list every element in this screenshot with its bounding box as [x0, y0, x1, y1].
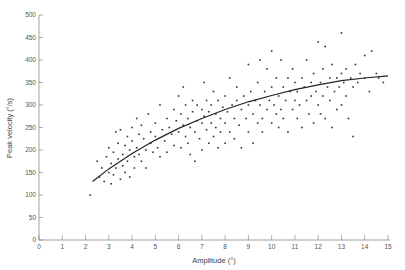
- data-point: [224, 122, 226, 124]
- data-point: [306, 59, 308, 61]
- y-tick-label: 0: [32, 236, 36, 243]
- data-point: [136, 147, 138, 149]
- data-point: [364, 55, 366, 57]
- fit-curve: [93, 76, 389, 182]
- data-point: [257, 122, 259, 124]
- data-point: [352, 86, 354, 88]
- data-point: [252, 142, 254, 144]
- data-point: [355, 64, 357, 66]
- data-point: [280, 59, 282, 61]
- data-point: [164, 140, 166, 142]
- data-point: [185, 136, 187, 138]
- x-tick-label: 3: [107, 243, 111, 250]
- data-point: [262, 118, 264, 120]
- data-point: [117, 142, 119, 144]
- data-point: [250, 91, 252, 93]
- data-point: [248, 64, 250, 66]
- data-point: [236, 100, 238, 102]
- data-point: [131, 127, 133, 129]
- data-point: [152, 151, 154, 153]
- data-point: [173, 145, 175, 147]
- data-point: [280, 109, 282, 111]
- data-point: [278, 127, 280, 129]
- data-point: [273, 104, 275, 106]
- data-point: [103, 181, 105, 183]
- data-point: [143, 138, 145, 140]
- data-point: [89, 194, 91, 196]
- data-point: [120, 178, 122, 180]
- data-point: [189, 154, 191, 156]
- data-point: [206, 129, 208, 131]
- data-point: [238, 124, 240, 126]
- data-point: [141, 124, 143, 126]
- data-point: [322, 68, 324, 70]
- data-point: [138, 133, 140, 135]
- data-point: [320, 82, 322, 84]
- data-point: [313, 73, 315, 75]
- data-point: [252, 113, 254, 115]
- y-tick-label: 450: [25, 34, 36, 41]
- data-point: [206, 100, 208, 102]
- y-tick-label: 300: [25, 101, 36, 108]
- data-point: [287, 77, 289, 79]
- data-point: [192, 100, 194, 102]
- x-tick-label: 4: [130, 243, 134, 250]
- data-point: [136, 118, 138, 120]
- data-point: [115, 167, 117, 169]
- data-point: [227, 111, 229, 113]
- data-point: [178, 95, 180, 97]
- x-tick-label: 0: [37, 243, 41, 250]
- data-point: [317, 104, 319, 106]
- data-point: [127, 136, 129, 138]
- data-point: [292, 68, 294, 70]
- data-point: [134, 156, 136, 158]
- data-point: [348, 118, 350, 120]
- data-point: [117, 158, 119, 160]
- y-tick-label: 500: [25, 11, 36, 18]
- data-point: [96, 160, 98, 162]
- data-point: [201, 109, 203, 111]
- x-axis-title: Amplitude (°): [192, 256, 236, 265]
- data-point: [334, 91, 336, 93]
- data-point: [145, 149, 147, 151]
- x-tick-label: 2: [84, 243, 88, 250]
- data-point: [294, 100, 296, 102]
- data-point: [199, 138, 201, 140]
- data-point: [331, 127, 333, 129]
- data-point: [220, 131, 222, 133]
- data-point: [110, 183, 112, 185]
- data-point: [271, 86, 273, 88]
- data-point: [122, 154, 124, 156]
- data-point: [234, 118, 236, 120]
- data-point: [301, 77, 303, 79]
- data-point: [350, 77, 352, 79]
- data-point: [224, 95, 226, 97]
- x-tick-label: 1: [60, 243, 64, 250]
- data-point: [248, 104, 250, 106]
- data-point: [192, 111, 194, 113]
- data-point: [194, 131, 196, 133]
- data-point: [162, 129, 164, 131]
- data-point: [210, 104, 212, 106]
- data-point: [383, 82, 385, 84]
- data-point: [210, 122, 212, 124]
- data-point: [148, 113, 150, 115]
- data-point: [201, 149, 203, 151]
- data-point: [180, 113, 182, 115]
- data-point: [248, 131, 250, 133]
- data-point: [292, 109, 294, 111]
- data-point: [208, 142, 210, 144]
- data-point: [299, 104, 301, 106]
- data-point: [215, 127, 217, 129]
- data-point: [124, 172, 126, 174]
- data-point: [324, 118, 326, 120]
- data-point: [322, 95, 324, 97]
- data-point: [338, 86, 340, 88]
- data-point: [217, 100, 219, 102]
- data-point: [310, 95, 312, 97]
- data-point: [343, 82, 345, 84]
- data-point: [222, 106, 224, 108]
- data-point: [336, 109, 338, 111]
- data-point: [171, 133, 173, 135]
- data-point: [166, 151, 168, 153]
